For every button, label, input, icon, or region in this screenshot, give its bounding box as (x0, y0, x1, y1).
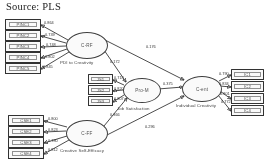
loading-coef: 0.864 (44, 20, 54, 25)
indicator-box[interactable]: PINC4 (5, 52, 41, 63)
construct-label-ic: Individual Creativity (176, 103, 216, 108)
construct-label-pdi: PDI to Creativity (60, 60, 93, 65)
loading-coef: 0.790 (219, 71, 229, 76)
indicator-box[interactable]: IC1 (231, 69, 264, 80)
loading-coef: 0.780 (48, 138, 58, 143)
construct-js[interactable]: Pro-M (123, 78, 161, 103)
construct-label-cse: Creative Self-Efficacy (60, 148, 104, 153)
indicator-box[interactable]: IC2 (231, 81, 264, 92)
loading-coef: 0.801 (220, 91, 230, 96)
loading-coef: 0.800 (48, 116, 58, 121)
indicator-box[interactable]: CSE1 (8, 115, 44, 126)
indicator-box[interactable]: PINC2 (5, 30, 41, 41)
construct-ic[interactable]: C-ent (182, 76, 222, 102)
path-coef-cse-ic: 0.296 (145, 124, 155, 129)
loading-coef: 0.802 (45, 54, 55, 59)
loading-coef: 0.823 (48, 127, 58, 132)
indicator-box[interactable]: PINC5 (5, 63, 41, 74)
path-coef-pdi-js: 0.172 (110, 59, 120, 64)
loading-coef: 0.739 (45, 32, 55, 37)
loading-coef: 0.772 (221, 99, 231, 104)
construct-cse[interactable]: C-FF (66, 120, 108, 147)
construct-pdi[interactable]: C-RF (66, 32, 108, 59)
indicator-box[interactable]: IC3 (231, 93, 264, 104)
indicator-box[interactable]: JS2 (88, 85, 113, 95)
indicator-box[interactable]: IC4 (231, 105, 264, 116)
path-coef-cse-js: 0.366 (110, 112, 120, 117)
loading-coef: 0.820 (114, 86, 124, 91)
loading-coef: 0.845 (43, 64, 53, 69)
indicator-box[interactable]: CSE2 (8, 126, 44, 137)
pls-path-diagram: Source: PLS (0, 0, 270, 168)
indicator-box[interactable]: PINC3 (5, 41, 41, 52)
indicator-box[interactable]: CSE3 (8, 137, 44, 148)
indicator-box[interactable]: JS3 (88, 96, 113, 106)
path-coef-pdi-ic: 0.176 (146, 44, 156, 49)
indicator-box[interactable]: CSE4 (8, 148, 44, 159)
indicator-box[interactable]: JS1 (88, 74, 113, 84)
loading-coef: 0.807 (114, 96, 124, 101)
construct-label-js: Job Satisfaction (117, 106, 150, 111)
loading-coef: 0.834 (219, 81, 229, 86)
loading-coef: 0.748 (46, 42, 56, 47)
path-coef-js-ic: 0.375 (163, 81, 173, 86)
loading-coef: 0.812 (48, 147, 58, 152)
indicator-box[interactable]: PINC1 (5, 19, 41, 30)
loading-coef: 0.718 (114, 75, 124, 80)
